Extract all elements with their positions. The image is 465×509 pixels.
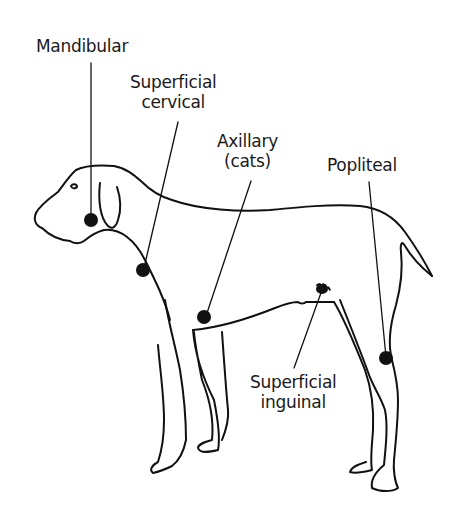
superficial-cervical-node [136,263,150,277]
label-superficial-inguinal: Superficialinguinal [250,372,336,412]
label-line-2: (cats) [224,151,271,171]
label-line-1: Superficial [130,72,216,92]
dog-outline [0,0,465,509]
label-mandibular: Mandibular [36,36,128,56]
axillary-node [197,310,211,324]
mandibular-node [84,213,98,227]
superficial-inguinal-node [316,284,328,294]
label-axillary: Axillary(cats) [217,131,278,171]
label-line-1: Axillary [217,131,278,151]
label-superficial-cervical: Superficialcervical [130,72,216,112]
label-text: Popliteal [327,155,397,175]
label-line-2: inguinal [261,392,326,412]
label-text: Mandibular [36,36,128,56]
label-line-2: cervical [141,92,205,112]
label-popliteal: Popliteal [327,155,397,175]
label-line-1: Superficial [250,372,336,392]
lymph-node-diagram: Mandibular Superficialcervical Axillary(… [0,0,465,509]
popliteal-node [379,351,393,365]
